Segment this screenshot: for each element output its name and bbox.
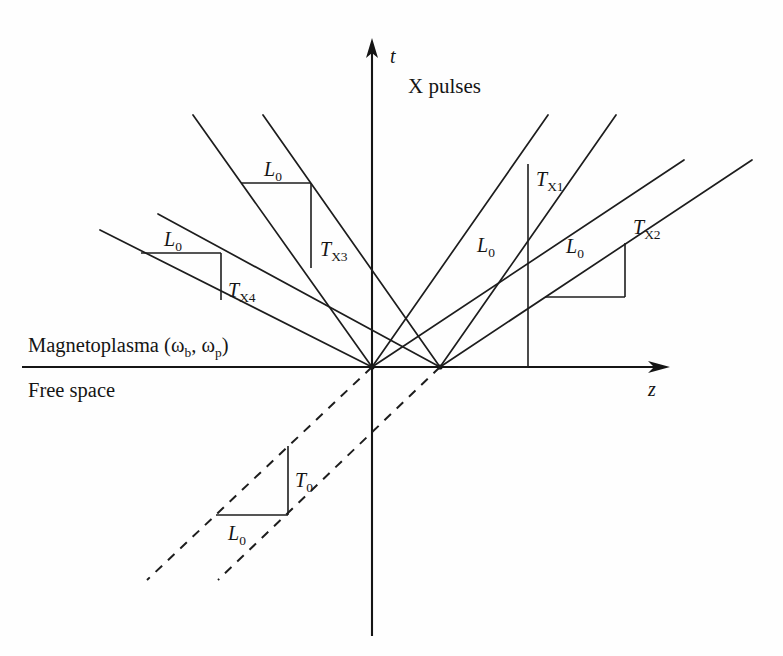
ray-group-x1 <box>372 115 616 367</box>
x-pulses-title: X pulses <box>408 74 481 98</box>
z-axis-label: z <box>647 378 656 400</box>
free-space-region-label: Free space <box>28 379 115 402</box>
ray-x2-upper <box>440 160 752 367</box>
l0-label-x3: L0 <box>263 158 282 184</box>
l0-label-x4: L0 <box>163 228 182 254</box>
tx1-subscript: X1 <box>547 179 564 194</box>
region-close-paren: ) <box>222 334 229 357</box>
omega-b-symbol: ω <box>171 334 185 356</box>
tx4-subscript: X4 <box>239 290 256 305</box>
t0-label: T0 <box>295 469 313 495</box>
tx4-label: TX4 <box>228 279 256 305</box>
l0-x3-base: L <box>263 158 275 180</box>
ray-x3-right <box>263 115 440 367</box>
ray-incident-lower-dashed <box>218 367 440 580</box>
tx1-label: TX1 <box>536 168 564 194</box>
ray-group-x3 <box>193 115 440 367</box>
ray-group-incident-dashed <box>147 367 440 580</box>
magnetoplasma-text: Magnetoplasma ( <box>28 334 171 357</box>
ray-incident-upper-dashed <box>147 367 372 580</box>
spacetime-diagram: t z X pulses Magnetoplasma (ωb, ωp) Free… <box>0 0 783 656</box>
tx2-label: TX2 <box>633 216 661 242</box>
l0-x4-subscript: 0 <box>175 239 182 254</box>
l0-x3-subscript: 0 <box>275 169 282 184</box>
measure-triangle-t0 <box>216 446 288 515</box>
tx2-subscript: X2 <box>644 227 661 242</box>
t0-subscript: 0 <box>306 480 313 495</box>
l0-label-x2: L0 <box>565 235 584 261</box>
figure-container: t z X pulses Magnetoplasma (ωb, ωp) Free… <box>0 0 783 656</box>
measure-triangle-tx3 <box>241 183 311 268</box>
l0-x1-subscript: 0 <box>488 245 495 260</box>
omega-p-symbol: ω <box>201 334 215 356</box>
t-axis-label: t <box>390 45 396 67</box>
l0-label-x1: L0 <box>476 234 495 260</box>
region-comma: , <box>191 334 201 356</box>
ray-x3-left <box>193 115 372 367</box>
l0-label-t0: L0 <box>227 522 246 548</box>
l0-x2-base: L <box>565 235 577 257</box>
ray-x1-lower <box>372 115 548 367</box>
l0-x4-base: L <box>163 228 175 250</box>
l0-t0-subscript: 0 <box>239 533 246 548</box>
tx3-subscript: X3 <box>331 249 348 264</box>
tx3-label: TX3 <box>320 238 348 264</box>
magnetoplasma-region-label: Magnetoplasma (ωb, ωp) <box>28 334 228 360</box>
l0-t0-base: L <box>227 522 239 544</box>
measure-triangle-tx4 <box>141 253 221 300</box>
l0-x1-base: L <box>476 234 488 256</box>
l0-x2-subscript: 0 <box>577 246 584 261</box>
